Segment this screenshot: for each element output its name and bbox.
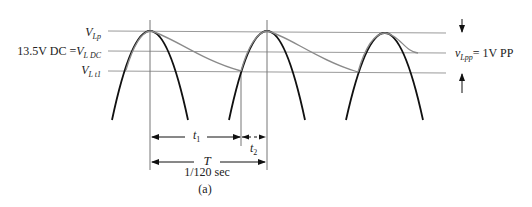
rectified-pulse-3 — [346, 33, 423, 120]
dc-voltage-label: 13.5V DC =VL DC — [17, 44, 101, 60]
ripple-waveform-diagram: VLp 13.5V DC =VL DC VL t1 vLpp= 1V PP t1… — [0, 0, 532, 207]
charge-curve-1 — [126, 31, 150, 70]
period-value: 1/120 sec — [184, 165, 230, 179]
t2-dimension-arrowhead-right — [259, 135, 266, 140]
dc-level-line — [108, 51, 446, 53]
min-level-line — [108, 71, 446, 73]
ripple-label: vLpp= 1V PP — [455, 46, 514, 62]
discharge-curve-2 — [267, 31, 358, 72]
charge-curve-2 — [241, 31, 267, 71]
figure-caption: (a) — [198, 182, 211, 196]
min-voltage-label: VL t1 — [81, 63, 101, 79]
peak-voltage-label: VLp — [85, 25, 101, 41]
t1-label: t1 — [193, 128, 200, 144]
peak-level-line — [108, 31, 446, 33]
t2-dimension-arrowhead-left — [242, 135, 249, 140]
t2-label: t2 — [250, 141, 257, 157]
